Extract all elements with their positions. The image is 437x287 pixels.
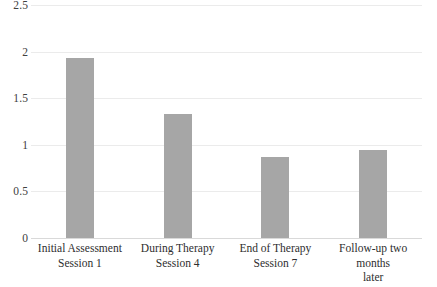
- x-tick-label: During Therapy Session 4: [129, 241, 227, 270]
- x-tick-label-line2: later: [324, 270, 422, 285]
- bar-chart: 2.5 2 1.5 1 0.5 0 Initial Assessment Ses…: [0, 0, 437, 287]
- y-tick-label: 0.5: [2, 185, 28, 197]
- x-tick-label-line1: Follow-up two months: [339, 242, 407, 269]
- x-tick-label: End of Therapy Session 7: [227, 241, 325, 270]
- x-tick-label-line2: Session 1: [31, 256, 129, 271]
- y-tick-label: 1.5: [2, 92, 28, 104]
- y-axis: 2.5 2 1.5 1 0.5 0: [0, 0, 28, 287]
- bar[interactable]: [66, 58, 94, 238]
- x-tick-label-line2: Session 7: [227, 256, 325, 271]
- y-tick-label: 2.5: [2, 0, 28, 11]
- bar[interactable]: [261, 157, 289, 238]
- bar[interactable]: [359, 150, 387, 238]
- x-tick-label-line1: Initial Assessment: [38, 242, 122, 254]
- y-tick-label: 1: [2, 139, 28, 151]
- x-tick-label-line1: During Therapy: [141, 242, 215, 254]
- x-tick-label: Follow-up two months later: [324, 241, 422, 285]
- y-tick-label: 0: [2, 232, 28, 244]
- x-axis-labels: Initial Assessment Session 1 During Ther…: [31, 241, 422, 285]
- bar[interactable]: [164, 114, 192, 238]
- y-tick-label: 2: [2, 46, 28, 58]
- x-tick-label-line1: End of Therapy: [239, 242, 311, 254]
- x-axis-line: [31, 238, 422, 239]
- x-tick-label: Initial Assessment Session 1: [31, 241, 129, 270]
- bars-layer: [31, 5, 422, 238]
- x-tick-label-line2: Session 4: [129, 256, 227, 271]
